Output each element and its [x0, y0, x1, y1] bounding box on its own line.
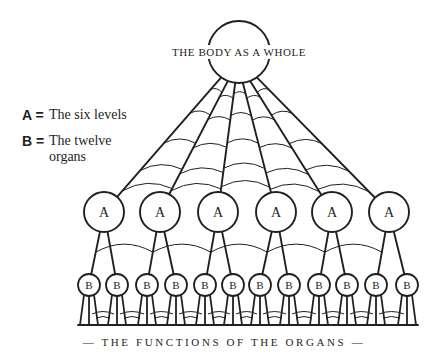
b-to-base-line [152, 295, 156, 326]
level-b-label: B [256, 279, 263, 291]
a-to-b-line [222, 232, 231, 275]
web-arc [122, 183, 172, 191]
a-to-b-line [164, 232, 173, 275]
level-b-label: B [315, 279, 322, 291]
legend-item-a: A = The six levels [22, 107, 129, 123]
radial-line [169, 81, 228, 194]
web-arc [193, 143, 226, 147]
web-arc [326, 317, 340, 319]
b-to-base-line [94, 295, 98, 326]
b-to-base-line [294, 295, 298, 326]
footer-label: — THE FUNCTIONS OF THE ORGANS — [0, 336, 440, 348]
web-arc [227, 139, 258, 143]
web-arc [171, 183, 221, 190]
level-a-label: A [271, 205, 282, 220]
b-to-base-line [196, 295, 200, 326]
a-to-b-line [108, 232, 116, 274]
a-to-b-line [262, 232, 271, 275]
web-arc [252, 117, 274, 120]
level-a-label: A [99, 205, 110, 220]
legend-text-b: The twelve organs [49, 133, 129, 165]
web-arc [92, 312, 114, 315]
b-to-base-line [238, 295, 242, 326]
legend-text-a: The six levels [49, 107, 129, 123]
nodes: THE BODY AS A WHOLEAAAAAABBBBBBBBBBBB [78, 21, 418, 296]
web-arc [270, 184, 319, 192]
b-to-base-line [251, 295, 255, 326]
a-to-b-line [378, 232, 386, 274]
a-to-b-line [336, 232, 345, 275]
web-arc [221, 181, 269, 188]
level-b-label: B [343, 279, 350, 291]
web-arc [183, 317, 198, 319]
web-arc [234, 92, 246, 94]
b-to-base-line [280, 295, 284, 326]
legend-key-a: A = [22, 107, 49, 123]
b-to-base-line [412, 295, 416, 326]
legend-item-b: B = The twelve organs [22, 133, 129, 165]
radial-line [221, 83, 236, 192]
b-to-base-line [381, 295, 385, 326]
web-arc [267, 317, 282, 319]
b-to-base-line [167, 295, 171, 326]
web-arc [289, 139, 321, 143]
a-to-b-line [149, 232, 157, 274]
level-b-label: B [285, 279, 292, 291]
b-to-base-line [138, 295, 142, 326]
top-node-label: THE BODY AS A WHOLE [172, 46, 306, 58]
web-arc [354, 317, 369, 319]
web-arc [240, 317, 253, 319]
level-a-label: A [384, 205, 395, 220]
radial-line [117, 77, 221, 197]
web-arc [208, 117, 230, 120]
web-arc [180, 168, 224, 174]
a-to-b-line [321, 232, 329, 274]
radial-line [257, 77, 375, 197]
b-to-base-line [324, 295, 328, 326]
web-arc [96, 317, 110, 319]
web-arc [383, 317, 400, 319]
b-to-base-line [224, 295, 228, 326]
radial-line [250, 81, 321, 195]
web-arc [211, 244, 267, 252]
web-arc [247, 95, 260, 98]
a-to-b-line [280, 232, 288, 274]
web-arc [306, 165, 349, 171]
web-arc [96, 244, 153, 252]
web-arc [190, 111, 210, 115]
web-arc [267, 244, 325, 252]
level-b-label: B [403, 279, 410, 291]
b-to-base-line [367, 295, 371, 326]
level-b-label: B [113, 279, 120, 291]
web-arc [154, 317, 169, 319]
web-arc [224, 163, 265, 168]
web-arc [259, 144, 292, 149]
b-to-base-line [398, 295, 402, 326]
a-to-b-line [91, 232, 100, 275]
b-to-base-line [338, 295, 342, 326]
web-arc [296, 317, 312, 319]
web-arc [212, 317, 226, 319]
level-b-label: B [201, 279, 208, 291]
b-to-base-line [210, 295, 214, 326]
level-b-label: B [85, 279, 92, 291]
legend-key-b: B = [22, 133, 49, 149]
web-arc [236, 312, 257, 315]
radial-line [243, 83, 271, 193]
web-arc [231, 113, 251, 116]
web-arc [208, 312, 230, 315]
organ-hierarchy-diagram: THE BODY AS A WHOLEAAAAAABBBBBBBBBBBB [0, 0, 440, 364]
b-to-base-line [265, 295, 269, 326]
b-to-base-line [352, 295, 356, 326]
a-to-b-line [207, 232, 215, 274]
level-b-label: B [172, 279, 179, 291]
b-to-base-line [80, 295, 84, 326]
web-arc [257, 89, 268, 93]
legend: A = The six levels B = The twelve organs [22, 107, 129, 175]
web-arc [140, 165, 182, 171]
b-to-base-line [181, 295, 185, 326]
b-to-base-line [122, 295, 126, 326]
b-to-base-line [108, 295, 112, 326]
level-b-label: B [229, 279, 236, 291]
web-arc [272, 111, 293, 115]
